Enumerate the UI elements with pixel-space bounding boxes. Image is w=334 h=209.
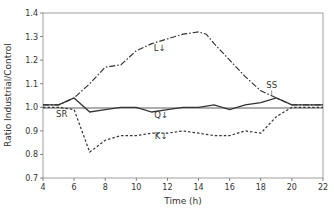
x-tick-label: 14 <box>193 183 203 192</box>
annotation-label: K↓ <box>155 131 168 141</box>
series-layer <box>43 32 323 152</box>
series-k-line <box>43 107 323 152</box>
x-tick-label: 6 <box>72 183 77 192</box>
annotation-label: SS <box>266 80 277 90</box>
plot-area <box>43 13 323 178</box>
x-axis-title: Time (h) <box>163 196 202 206</box>
x-tick-label: 22 <box>318 183 328 192</box>
plot-frame <box>43 13 323 178</box>
y-tick-label: 0.7 <box>25 174 38 183</box>
x-tick-label: 18 <box>256 183 266 192</box>
series-q-line <box>43 98 323 112</box>
x-tick-label: 12 <box>162 183 172 192</box>
annotation-label: SR <box>56 109 67 119</box>
y-axis-title: Ratio Industrial/Control <box>3 43 13 147</box>
x-axis: 46810121416182022 <box>40 178 328 192</box>
y-tick-label: 0.9 <box>25 127 38 136</box>
y-tick-label: 1.3 <box>25 33 38 42</box>
line-chart: 0.70.80.91.01.11.21.31.4 468101214161820… <box>0 0 334 209</box>
x-tick-label: 20 <box>287 183 297 192</box>
y-tick-label: 0.8 <box>25 150 38 159</box>
x-tick-label: 4 <box>40 183 45 192</box>
annotation-label: Q↓ <box>154 110 168 120</box>
y-tick-label: 1.4 <box>25 9 38 18</box>
x-tick-label: 10 <box>131 183 141 192</box>
y-tick-label: 1.0 <box>25 103 38 112</box>
y-tick-label: 1.1 <box>25 80 38 89</box>
annotation-label: L↓ <box>154 43 166 53</box>
x-tick-label: 8 <box>103 183 108 192</box>
annotations: SRSSL↓Q↓K↓ <box>56 43 277 141</box>
x-tick-label: 16 <box>225 183 235 192</box>
series-l-line <box>43 32 323 105</box>
y-axis: 0.70.80.91.01.11.21.31.4 <box>25 9 43 183</box>
y-tick-label: 1.2 <box>25 56 38 65</box>
